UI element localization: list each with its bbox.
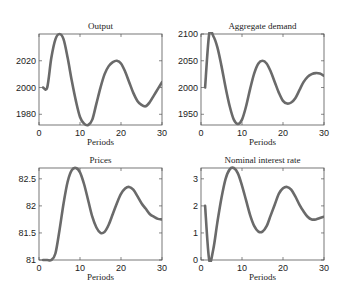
- x-tick-label: 0: [198, 263, 203, 273]
- y-tick-label: 2050: [178, 56, 198, 66]
- x-tick-label: 0: [36, 128, 41, 138]
- subplot-3: Prices01020308181.58282.5Periods: [18, 155, 167, 282]
- x-tick-label: 0: [198, 128, 203, 138]
- x-tick-label: 20: [116, 128, 126, 138]
- y-tick-label: 81.5: [18, 228, 36, 238]
- x-tick-label: 30: [319, 128, 329, 138]
- subplot-title: Nominal interest rate: [225, 155, 301, 165]
- x-tick-label: 0: [36, 263, 41, 273]
- x-tick-label: 30: [157, 128, 167, 138]
- subplot-2: Aggregate demand01020301950200020502100P…: [178, 21, 329, 147]
- series-line: [43, 34, 162, 125]
- subplot-title: Output: [88, 21, 114, 31]
- x-tick-label: 30: [157, 263, 167, 273]
- y-tick-label: 1980: [16, 109, 36, 119]
- subplot-4: Nominal interest rate01020300123Periods: [193, 155, 329, 282]
- series-line: [205, 168, 324, 263]
- figure: Output0102030198020002020PeriodsAggregat…: [0, 0, 344, 298]
- y-tick-label: 2000: [178, 83, 198, 93]
- x-tick-label: 10: [75, 263, 85, 273]
- y-tick-label: 82.5: [18, 174, 36, 184]
- x-tick-label: 10: [75, 128, 85, 138]
- subplot-1: Output0102030198020002020Periods: [16, 21, 167, 147]
- y-tick-label: 2100: [178, 29, 198, 39]
- axes-box: [39, 34, 162, 125]
- y-tick-label: 0: [193, 255, 198, 265]
- x-tick-label: 30: [319, 263, 329, 273]
- y-tick-label: 1: [193, 228, 198, 238]
- x-tick-label: 20: [278, 263, 288, 273]
- y-tick-label: 1950: [178, 109, 198, 119]
- y-tick-label: 3: [193, 174, 198, 184]
- y-tick-label: 2: [193, 201, 198, 211]
- x-axis-label: Periods: [87, 137, 114, 147]
- x-tick-label: 10: [237, 263, 247, 273]
- x-axis-label: Periods: [249, 272, 276, 282]
- x-tick-label: 20: [116, 263, 126, 273]
- y-tick-label: 81: [26, 255, 36, 265]
- series-line: [43, 168, 162, 261]
- y-tick-label: 82: [26, 201, 36, 211]
- x-axis-label: Periods: [87, 272, 114, 282]
- x-axis-label: Periods: [249, 137, 276, 147]
- subplot-title: Prices: [90, 155, 112, 165]
- subplot-title: Aggregate demand: [228, 21, 297, 31]
- x-tick-label: 20: [278, 128, 288, 138]
- y-tick-label: 2000: [16, 83, 36, 93]
- x-tick-label: 10: [237, 128, 247, 138]
- series-line: [205, 30, 324, 124]
- y-tick-label: 2020: [16, 56, 36, 66]
